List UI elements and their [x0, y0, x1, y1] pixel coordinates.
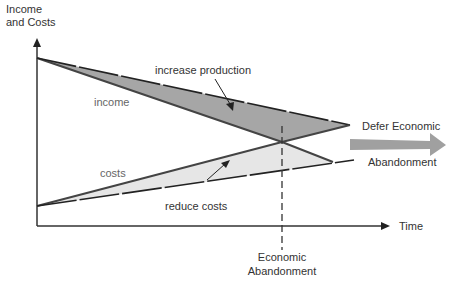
income-label: income: [94, 96, 129, 109]
costs-label: costs: [100, 167, 126, 180]
reduce-costs-area: [37, 142, 333, 206]
diagram-canvas: [0, 0, 460, 286]
abandonment-label-line1: Economic: [245, 251, 319, 264]
defer-label-line1: Defer Economic: [362, 120, 440, 133]
y-axis-label-line1: Income: [6, 3, 42, 16]
reduce-costs-label: reduce costs: [165, 200, 227, 213]
y-axis-arrowhead: [33, 38, 41, 47]
x-axis-arrowhead: [381, 222, 390, 230]
abandonment-label-line2: Abandonment: [240, 265, 324, 278]
x-axis-label: Time: [399, 220, 423, 233]
increase-production-label: increase production: [155, 64, 251, 77]
defer-label-line2: Abandonment: [368, 156, 437, 169]
defer-abandonment-arrow: [350, 133, 446, 156]
y-axis-label-line2: and Costs: [6, 16, 56, 29]
